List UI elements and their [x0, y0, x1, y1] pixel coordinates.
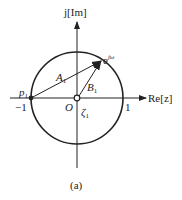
zero-label: ζ1 [81, 106, 89, 120]
z-plane-diagram: j[Im] Re[z] −1 1 O p1 ζ1 ejω A1 B1 (a) [0, 0, 182, 200]
origin-label: O [65, 101, 73, 113]
figure-caption: (a) [70, 179, 83, 192]
vector-a1-label: A1 [55, 71, 67, 85]
real-axis-label: Re[z] [148, 92, 172, 104]
imag-axis-label: j[Im] [63, 6, 87, 18]
tick-pos-one: 1 [125, 101, 131, 113]
zero-marker [74, 95, 80, 101]
vector-b1-label: B1 [87, 81, 98, 95]
tick-neg-one: −1 [15, 101, 27, 113]
pole-p1-marker [29, 96, 34, 101]
pole-label: p1 [18, 86, 29, 100]
